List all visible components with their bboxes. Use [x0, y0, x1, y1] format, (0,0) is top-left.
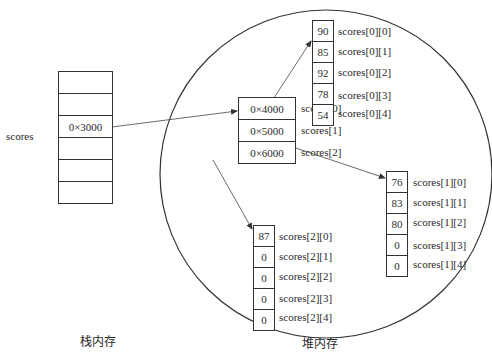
row2-label: scores[2][4]: [279, 312, 332, 323]
row1-cell: 80: [386, 213, 408, 235]
row0-cell: 90: [312, 20, 334, 42]
row2-label: scores[2][1]: [279, 251, 332, 262]
row1-cell: 83: [386, 192, 408, 214]
row1-label: scores[1][3]: [413, 240, 466, 251]
stack-memory-caption: 栈内存: [80, 332, 116, 349]
row0-label: scores[0][2]: [338, 67, 391, 78]
row0-label: scores[0][4]: [338, 108, 391, 119]
pointer-label: scores[1]: [301, 125, 341, 136]
row0-label: scores[0][0]: [338, 26, 391, 37]
stack-cell-scores-ref: 0×3000: [58, 115, 113, 138]
row2-label: scores[2][0]: [279, 231, 332, 242]
row0-cell: 54: [312, 104, 334, 126]
arrow-stack-to-pointer-array: [104, 111, 237, 128]
row1-label: scores[1][2]: [413, 217, 466, 228]
arrow-row0: [270, 41, 311, 104]
row1-cell: 0: [386, 255, 408, 277]
arrow-row2: [213, 160, 252, 229]
row2-cell: 87: [253, 225, 275, 247]
pointer-cell: 0×5000: [238, 119, 296, 142]
stack-cell: [58, 137, 113, 160]
stack-cell: [58, 93, 113, 116]
row2-label: scores[2][3]: [279, 293, 332, 304]
row1-label: scores[1][4]: [413, 259, 466, 270]
row0-cell: 85: [312, 41, 334, 63]
row2-cell: 0: [253, 288, 275, 310]
row1-label: scores[1][0]: [413, 177, 466, 188]
pointer-cell: 0×4000: [238, 97, 296, 120]
row0-cell: 92: [312, 62, 334, 84]
row2-cell: 0: [253, 246, 275, 268]
row1-label: scores[1][1]: [413, 197, 466, 208]
row0-label: scores[0][1]: [338, 46, 391, 57]
row1-cell: 76: [386, 171, 408, 193]
stack-cell: [58, 181, 113, 204]
stack-cell: [58, 159, 113, 182]
row0-label: scores[0][3]: [338, 90, 391, 101]
stack-cell: [58, 71, 113, 94]
row0-cell: 78: [312, 83, 334, 105]
stack-variable-name: scores: [6, 131, 34, 142]
pointer-cell: 0×6000: [238, 141, 296, 164]
pointer-label: scores[2]: [301, 147, 341, 158]
row1-cell: 0: [386, 234, 408, 256]
heap-memory-caption: 堆内存: [302, 334, 338, 351]
row2-label: scores[2][2]: [279, 271, 332, 282]
row2-cell: 0: [253, 267, 275, 289]
row2-cell: 0: [253, 309, 275, 331]
